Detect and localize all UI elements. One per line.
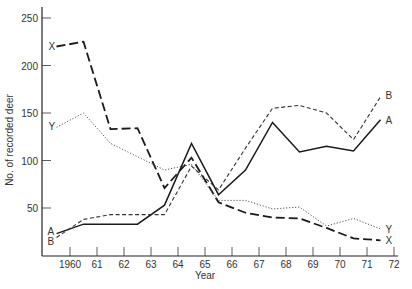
x-tick-label: 1960 (59, 259, 82, 270)
series-label-start-a: A (48, 226, 55, 237)
y-tick-label: 50 (27, 203, 39, 214)
x-tick-label: 64 (172, 259, 184, 270)
x-axis-label: Year (195, 270, 216, 281)
series-label-start-b: B (48, 236, 55, 247)
series-label-start-y: Y (49, 121, 56, 132)
y-tick-label: 200 (21, 61, 38, 72)
x-tick-label: 63 (145, 259, 157, 270)
series-line-a (57, 120, 381, 234)
series-lines (57, 42, 381, 241)
series-label-start-x: X (49, 41, 56, 52)
x-tick-label: 67 (253, 259, 265, 270)
x-tick-label: 61 (91, 259, 103, 270)
y-tick-label: 250 (21, 13, 38, 24)
series-label-end-b: B (386, 90, 393, 101)
series-line-y (57, 113, 381, 229)
series-label-end-x: X (386, 235, 393, 246)
y-ticks: 50100150200250 (21, 13, 51, 214)
x-tick-label: 72 (388, 259, 400, 270)
y-tick-label: 100 (21, 156, 38, 167)
x-tick-label: 66 (226, 259, 238, 270)
x-tick-label: 65 (199, 259, 211, 270)
x-tick-label: 69 (307, 259, 319, 270)
series-label-end-a: A (386, 115, 393, 126)
axes: 50100150200250 1960616263646566676869707… (4, 7, 400, 281)
series-label-end-y: Y (386, 224, 393, 235)
deer-count-line-chart: 50100150200250 1960616263646566676869707… (0, 0, 412, 289)
x-ticks: 1960616263646566676869707172 (59, 247, 400, 270)
x-tick-label: 71 (361, 259, 373, 270)
x-tick-label: 70 (334, 259, 346, 270)
series-line-b (57, 97, 381, 238)
x-tick-label: 62 (118, 259, 130, 270)
y-tick-label: 150 (21, 108, 38, 119)
series-line-x (57, 42, 381, 241)
x-tick-label: 68 (280, 259, 292, 270)
y-axis-label: No. of recorded deer (4, 93, 15, 185)
